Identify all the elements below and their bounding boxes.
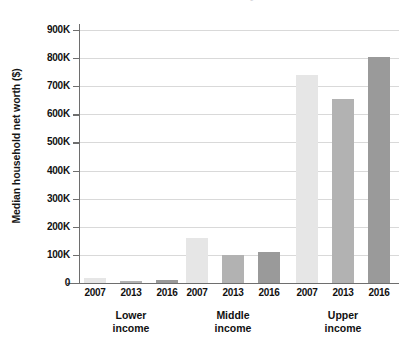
x-tick-label: 2007	[75, 287, 115, 298]
group-label-line2: income	[288, 322, 398, 335]
y-tick-label: 100K	[22, 249, 70, 260]
chart-title-text: Median household net worth by income tie…	[0, 0, 406, 1]
bar	[258, 252, 280, 283]
y-tick-label: 300K	[22, 193, 70, 204]
y-axis-line	[79, 24, 80, 283]
group-label: Middleincome	[178, 309, 288, 335]
bar	[186, 238, 208, 283]
y-tick-label: 200K	[22, 221, 70, 232]
bar-chart: Median household net worth by income tie…	[0, 0, 406, 344]
y-tick-mark	[73, 114, 79, 115]
x-tick-label: 2013	[323, 287, 363, 298]
x-tick-label: 2016	[359, 287, 399, 298]
y-tick-mark	[73, 142, 79, 143]
y-tick-mark	[73, 58, 79, 59]
group-label: Lowerincome	[76, 309, 186, 335]
bar	[296, 75, 318, 283]
y-tick-label: 800K	[22, 52, 70, 63]
y-tick-mark	[73, 171, 79, 172]
gridline	[79, 86, 399, 87]
clipped-chart-title: Median household net worth by income tie…	[0, 0, 406, 7]
x-tick-label: 2013	[213, 287, 253, 298]
y-tick-mark	[73, 283, 79, 284]
y-tick-mark	[73, 255, 79, 256]
group-label-line1: Lower	[76, 309, 186, 322]
bar	[332, 99, 354, 283]
y-axis-title: Median household net worth ($)	[10, 26, 22, 266]
x-axis-line	[67, 283, 399, 284]
y-tick-label: 0	[22, 277, 70, 288]
y-tick-label: 400K	[22, 165, 70, 176]
bar	[222, 255, 244, 283]
y-tick-label: 600K	[22, 108, 70, 119]
y-tick-label: 900K	[22, 24, 70, 35]
y-tick-label: 500K	[22, 136, 70, 147]
x-tick-label: 2007	[177, 287, 217, 298]
x-tick-label: 2016	[249, 287, 289, 298]
y-tick-mark	[73, 30, 79, 31]
y-tick-label: 700K	[22, 80, 70, 91]
y-tick-mark	[73, 227, 79, 228]
plot-area	[79, 24, 399, 283]
group-label-line1: Upper	[288, 309, 398, 322]
group-label: Upperincome	[288, 309, 398, 335]
gridline	[79, 58, 399, 59]
y-tick-mark	[73, 199, 79, 200]
gridline	[79, 30, 399, 31]
group-label-line2: income	[76, 322, 186, 335]
x-tick-label: 2013	[111, 287, 151, 298]
bar	[368, 57, 390, 283]
group-label-line2: income	[178, 322, 288, 335]
y-tick-mark	[73, 86, 79, 87]
x-tick-label: 2007	[287, 287, 327, 298]
group-label-line1: Middle	[178, 309, 288, 322]
